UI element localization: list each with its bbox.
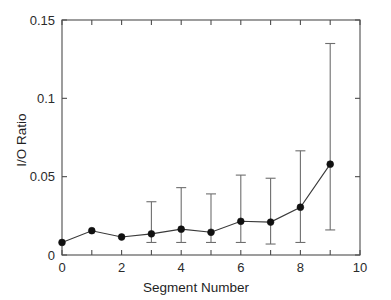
data-point-marker xyxy=(148,230,155,237)
data-point-marker xyxy=(59,239,66,246)
x-axis-label: Segment Number xyxy=(143,280,249,295)
data-point-marker xyxy=(178,226,185,233)
x-tick-label: 2 xyxy=(118,260,125,275)
y-axis-label: I/O Ratio xyxy=(14,113,29,166)
y-tick-label: 0.1 xyxy=(37,91,55,106)
errorbar-line-chart: 0246810 00.050.10.15 Segment Number I/O … xyxy=(0,0,391,300)
data-point-marker xyxy=(118,234,125,241)
y-tick-label: 0.15 xyxy=(30,13,55,28)
x-tick-label: 6 xyxy=(237,260,244,275)
chart-figure: 0246810 00.050.10.15 Segment Number I/O … xyxy=(0,0,391,300)
data-point-marker xyxy=(297,204,304,211)
x-tick-label: 10 xyxy=(353,260,367,275)
y-tick-label: 0 xyxy=(48,248,55,263)
data-point-marker xyxy=(327,161,334,168)
x-tick-label: 4 xyxy=(178,260,185,275)
y-tick-label: 0.05 xyxy=(30,169,55,184)
data-point-marker xyxy=(208,229,215,236)
data-point-marker xyxy=(267,219,274,226)
x-tick-label: 0 xyxy=(58,260,65,275)
data-point-marker xyxy=(88,227,95,234)
x-tick-label: 8 xyxy=(297,260,304,275)
data-point-marker xyxy=(237,218,244,225)
